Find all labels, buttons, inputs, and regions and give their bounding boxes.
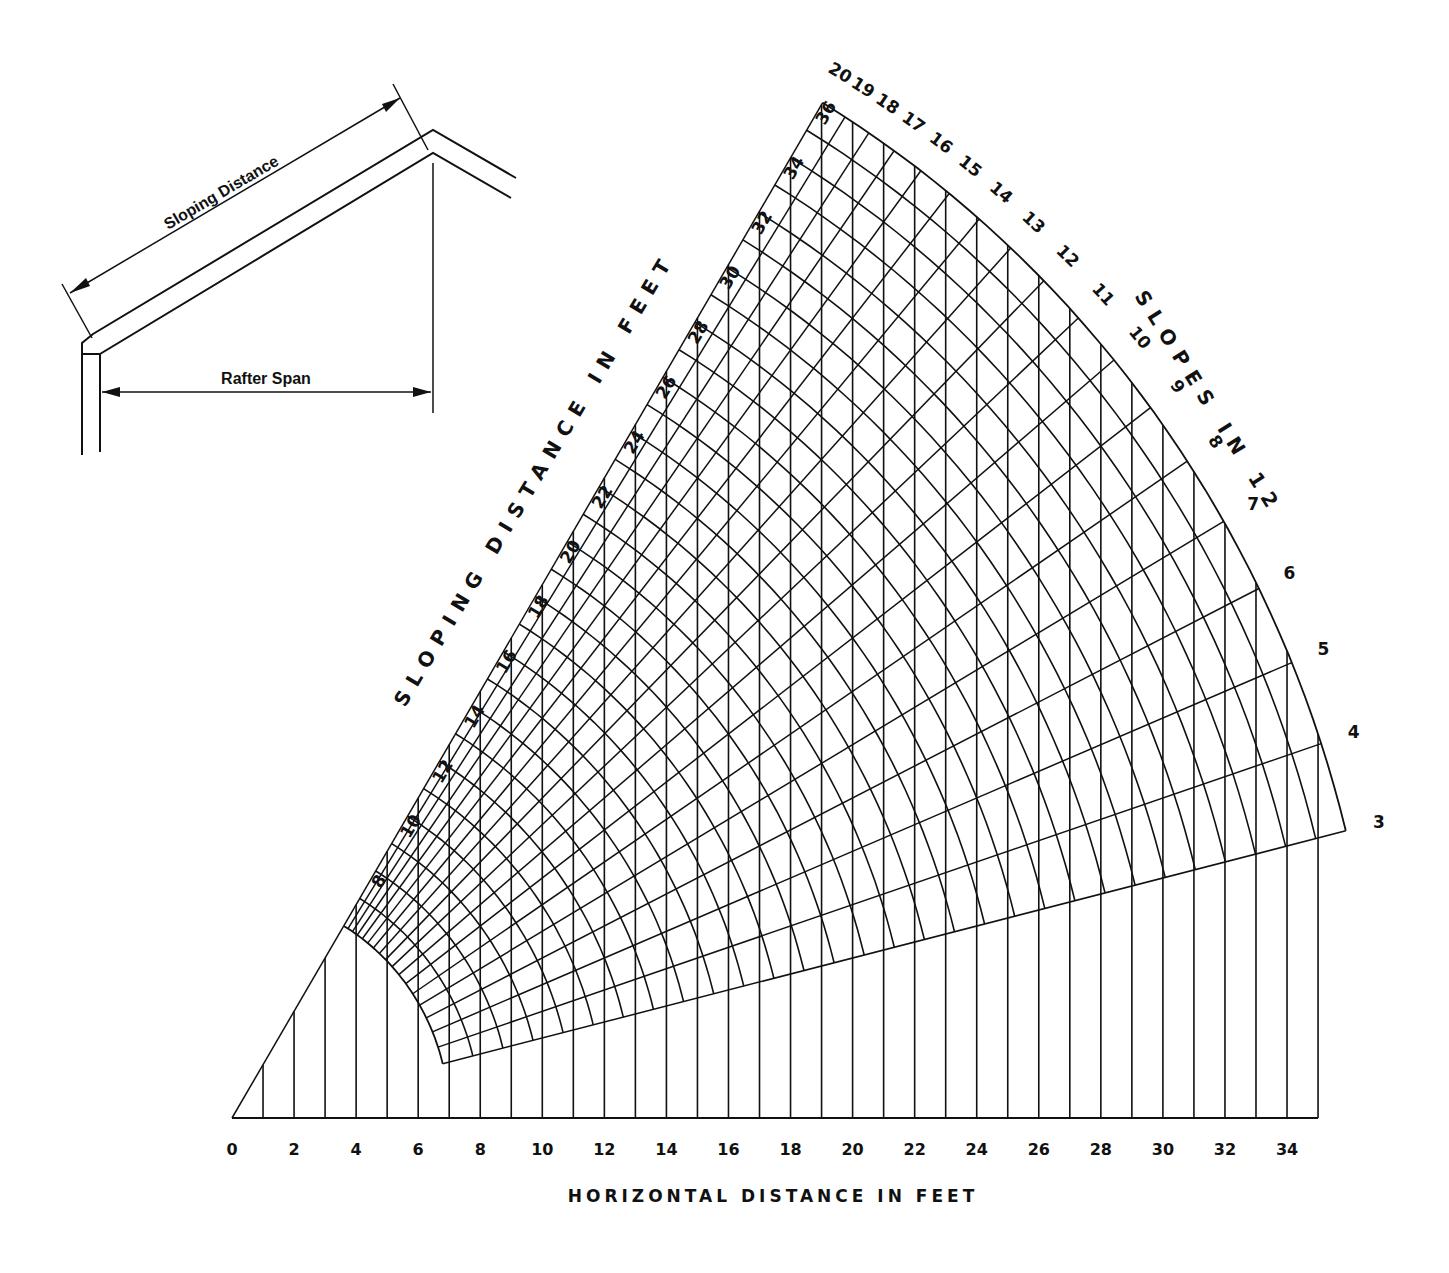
x-tick-label: 4 — [351, 1140, 362, 1159]
sloping-distance-label: 28 — [683, 317, 712, 348]
x-tick-label: 0 — [226, 1140, 237, 1159]
sloping-distance-arc — [376, 871, 503, 1048]
roof-inset-diagram: Sloping Distance Rafter Span — [62, 84, 516, 455]
sloping-distance-label: 16 — [492, 646, 521, 677]
rafter-length-nomogram: Sloping Distance Rafter Span 34567891011… — [0, 0, 1449, 1273]
sloping-distance-arc — [823, 103, 1346, 831]
x-tick-label: 18 — [779, 1140, 801, 1159]
x-tick-label: 32 — [1214, 1140, 1236, 1159]
slope-line — [443, 831, 1346, 1064]
sloping-distance-arc — [695, 322, 1105, 893]
slope-label: 15 — [955, 151, 986, 181]
sloping-distance-label: 26 — [651, 372, 680, 403]
x-tick-label: 28 — [1090, 1140, 1112, 1159]
slope-line — [352, 133, 868, 932]
slope-label: 17 — [898, 107, 929, 137]
sloping-distance-arc — [567, 542, 864, 955]
sloping-distance-label: 24 — [619, 427, 648, 458]
sloping-distance-label: 10 — [396, 811, 425, 842]
sloping-distance-label: Sloping Distance — [161, 152, 282, 233]
slope-label: 3 — [1373, 812, 1385, 832]
slope-label: 19 — [848, 72, 879, 102]
slope-label: 11 — [1088, 279, 1119, 310]
sloping-distance-arc — [360, 899, 473, 1056]
sloping-distance-arc — [551, 569, 834, 963]
x-tick-label: 10 — [531, 1140, 553, 1159]
x-tick-label: 12 — [593, 1140, 615, 1159]
sloping-distance-arc — [775, 185, 1256, 854]
slope-label: 6 — [1284, 563, 1296, 583]
x-tick-label: 2 — [288, 1140, 299, 1159]
x-tick-label: 14 — [655, 1140, 677, 1159]
slope-label: 4 — [1348, 722, 1360, 742]
sloping-distance-label: 22 — [587, 482, 616, 513]
sloping-distance-arc — [344, 926, 443, 1064]
sloping-distance-label: 36 — [811, 97, 840, 128]
slope-label: 16 — [926, 128, 957, 158]
nomogram-labels: 3456789101112131415161718192002468101214… — [226, 58, 1384, 1159]
sloping-distance-label: 34 — [779, 152, 808, 183]
sloping-distance-label: 12 — [428, 756, 457, 787]
slope-line — [413, 461, 1188, 994]
sloping-distance-label: 32 — [747, 207, 776, 238]
sloping-distance-label: 20 — [555, 536, 584, 567]
slope-label: 5 — [1317, 639, 1329, 659]
sloping-distance-arc — [487, 679, 713, 994]
sloping-distance-label: 18 — [524, 591, 553, 622]
nomogram-grid — [232, 103, 1346, 1118]
slope-line — [368, 193, 950, 943]
slope-label: 18 — [872, 89, 903, 119]
x-tick-label: 26 — [1028, 1140, 1050, 1159]
x-tick-label: 22 — [904, 1140, 926, 1159]
sloping-distance-arc — [456, 734, 654, 1010]
x-tick-label: 24 — [966, 1140, 988, 1159]
sloping-distance-arc — [503, 652, 743, 987]
x-tick-label: 34 — [1276, 1140, 1298, 1159]
slope-line — [348, 117, 845, 929]
x-axis-title: HORIZONTAL DISTANCE IN FEET — [568, 1186, 979, 1206]
x-tick-label: 6 — [413, 1140, 424, 1159]
sloping-distance-arc — [599, 487, 924, 940]
slope-label: 14 — [986, 177, 1017, 208]
rafter-span-label: Rafter Span — [221, 370, 311, 387]
sloping-distance-arc — [631, 432, 985, 924]
x-tick-label: 16 — [717, 1140, 739, 1159]
x-tick-label: 30 — [1152, 1140, 1174, 1159]
x-tick-label: 20 — [841, 1140, 863, 1159]
sloping-distance-arc — [535, 597, 804, 971]
slope-label: 12 — [1053, 240, 1084, 271]
slope-label: 13 — [1018, 207, 1049, 238]
sloping-distance-arc — [679, 350, 1075, 901]
x-tick-label: 8 — [475, 1140, 486, 1159]
